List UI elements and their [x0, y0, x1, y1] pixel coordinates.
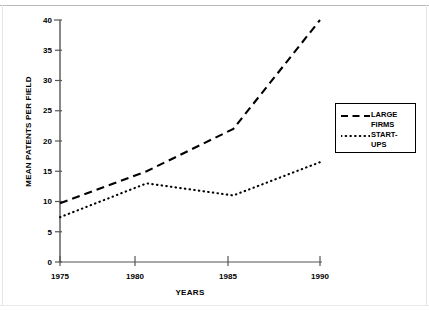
y-tick-label-5: 5 [26, 228, 52, 237]
legend-item-large-firms: LARGE FIRMS [341, 110, 397, 129]
y-tick-marks [54, 20, 62, 262]
x-tick-label-1980: 1980 [115, 272, 155, 281]
line-chart: MEAN PATENTS PER FIELD 40 35 30 25 20 15… [0, 0, 429, 310]
y-tick-label-20: 20 [26, 137, 52, 146]
x-tick-marks [60, 256, 320, 266]
legend-swatch-dotted [341, 131, 370, 141]
x-tick-label-1985: 1985 [208, 272, 248, 281]
y-tick-label-0: 0 [26, 258, 52, 267]
y-tick-label-35: 35 [26, 46, 52, 55]
x-axis-title: YEARS [145, 288, 235, 297]
legend-label-large-firms: LARGE FIRMS [371, 110, 397, 129]
legend-label-start-ups: START- UPS [371, 130, 398, 149]
legend-label-large-firms-line1: LARGE [371, 110, 397, 120]
y-tick-label-40: 40 [26, 16, 52, 25]
series-line-large-firms [60, 20, 320, 203]
y-tick-label-30: 30 [26, 76, 52, 85]
x-tick-label-1975: 1975 [40, 272, 80, 281]
legend-swatch-dashed [341, 111, 370, 121]
y-tick-label-10: 10 [26, 197, 52, 206]
legend-label-large-firms-line2: FIRMS [371, 120, 397, 130]
legend-item-start-ups: START- UPS [341, 130, 398, 149]
plot-area [0, 0, 429, 310]
legend-label-start-ups-line1: START- [371, 130, 398, 140]
y-tick-label-25: 25 [26, 106, 52, 115]
y-tick-label-15: 15 [26, 167, 52, 176]
x-tick-label-1990: 1990 [300, 272, 340, 281]
legend-label-start-ups-line2: UPS [371, 140, 398, 150]
chart-legend: LARGE FIRMS START- UPS [335, 103, 416, 153]
